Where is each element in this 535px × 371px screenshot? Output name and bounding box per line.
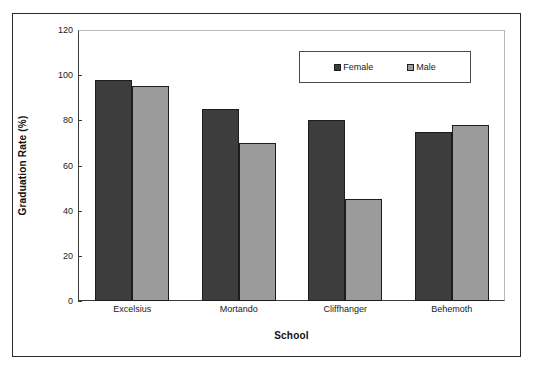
bar [308,120,345,301]
x-axis-tick-label: Behemoth [431,305,472,314]
y-axis-tick-label: 40 [63,206,73,215]
bar [345,199,382,301]
bar [415,132,452,301]
legend-entry: Female [334,63,373,72]
chart-figure: Graduation Rate (%) 020406080100120 Exce… [0,0,535,371]
y-axis-tick-label: 0 [68,297,73,306]
y-axis-title: Graduation Rate (%) [14,30,32,301]
legend-label: Male [416,63,436,72]
legend-label: Female [343,63,373,72]
x-axis-tick-label: Cliffhanger [324,305,367,314]
bar [95,80,132,301]
bar [452,125,489,301]
bar [202,109,239,301]
y-axis-tick-mark [78,301,82,302]
chart-legend: FemaleMale [299,51,471,83]
bar [132,86,169,301]
y-axis-title-label: Graduation Rate (%) [18,116,29,216]
bar [239,143,276,301]
y-axis-tick-labels: 020406080100120 [40,30,73,301]
legend-swatch-icon [334,64,341,71]
legend-swatch-icon [407,64,414,71]
x-axis-tick-label: Mortando [220,305,258,314]
y-axis-tick-label: 60 [63,161,73,170]
y-axis-tick-label: 120 [58,26,73,35]
y-axis-tick-label: 20 [63,251,73,260]
legend-entry: Male [407,63,436,72]
x-axis-tick-labels: ExcelsiusMortandoCliffhangerBehemoth [79,305,505,321]
y-axis-tick-label: 100 [58,71,73,80]
y-axis-tick-label: 80 [63,116,73,125]
x-axis-title: School [78,330,505,341]
x-axis-tick-label: Excelsius [113,305,151,314]
